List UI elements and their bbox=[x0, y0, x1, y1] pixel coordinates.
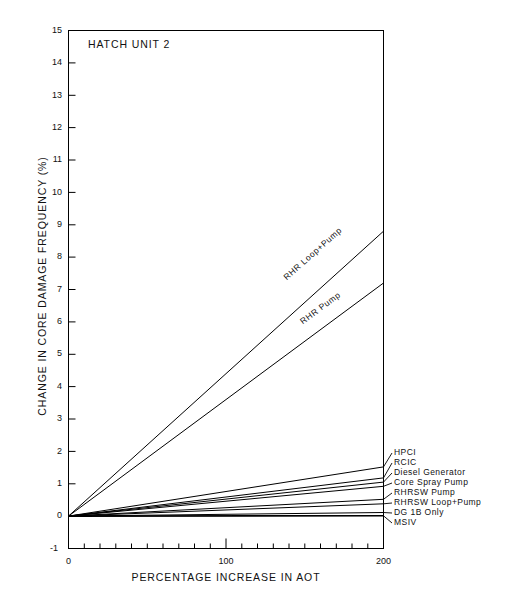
y-tick-label-1: 1 bbox=[36, 479, 62, 488]
y-axis-ticks bbox=[69, 31, 76, 549]
chart-figure: HATCH UNIT 2 15 14 13 12 11 10 9 8 7 6 5… bbox=[0, 0, 507, 607]
legend-label-rhrsw-loop-pump: RHRSW Loop+Pump bbox=[394, 498, 481, 507]
legend-label-diesel-generator: Diesel Generator bbox=[394, 468, 465, 477]
callout-core-spray-pump bbox=[384, 483, 393, 486]
legend-label-dg-1b-only: DG 1B Only bbox=[394, 508, 444, 517]
callout-rhrsw-pump bbox=[384, 493, 393, 499]
x-axis-title: PERCENTAGE INCREASE IN AOT bbox=[68, 571, 384, 583]
legend-label-hpci: HPCI bbox=[394, 448, 416, 457]
y-tick-label-2: 2 bbox=[36, 447, 62, 456]
callout-diesel-generator bbox=[384, 473, 393, 482]
y-axis-title: CHANGE IN CORE DAMAGE FREQUENCY (%) bbox=[36, 136, 48, 436]
callout-msiv bbox=[384, 516, 393, 523]
y-tick-label-13: 13 bbox=[36, 91, 62, 100]
callout-dg-1b-only bbox=[384, 513, 393, 514]
y-tick-label-14: 14 bbox=[36, 58, 62, 67]
y-tick-label-0: 0 bbox=[36, 511, 62, 520]
legend-callouts bbox=[384, 453, 393, 523]
legend-label-rhrsw-pump: RHRSW Pump bbox=[394, 488, 455, 497]
y-tick-label-12: 12 bbox=[36, 123, 62, 132]
x-tick-label-100: 100 bbox=[206, 557, 246, 566]
series-lines bbox=[69, 231, 384, 516]
x-tick-label-200: 200 bbox=[364, 557, 404, 566]
x-axis-ticks bbox=[69, 539, 384, 549]
legend-label-rcic: RCIC bbox=[394, 458, 417, 467]
series-line-rhr-pump bbox=[69, 283, 384, 516]
series-line-hpci bbox=[69, 467, 384, 516]
y-tick-label-15: 15 bbox=[36, 26, 62, 35]
series-line-diesel-generator bbox=[69, 482, 384, 516]
legend-label-core-spray-pump: Core Spray Pump bbox=[394, 478, 468, 487]
series-line-core-spray-pump bbox=[69, 486, 384, 516]
series-line-rhrsw-pump bbox=[69, 499, 384, 516]
y-tick-label-neg1: -1 bbox=[32, 544, 58, 553]
callout-rhrsw-loop-pump bbox=[384, 503, 393, 504]
plot-annotation-title: HATCH UNIT 2 bbox=[88, 38, 170, 50]
series-line-rhr-loop-pump bbox=[69, 231, 384, 516]
x-tick-label-0: 0 bbox=[49, 557, 89, 566]
legend-label-msiv: MSIV bbox=[394, 518, 417, 527]
